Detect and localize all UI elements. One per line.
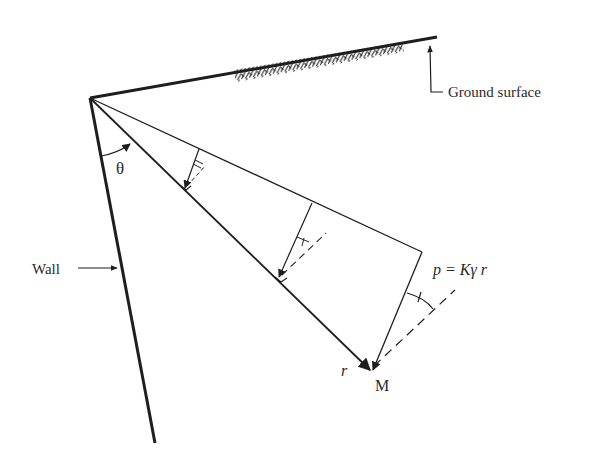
- point-M-label: M: [375, 377, 389, 394]
- theta-label: θ: [116, 159, 124, 178]
- tick-1a: [193, 164, 201, 168]
- ground-surface-line: [90, 37, 437, 98]
- diagram-canvas: Ground surface Wall θ p = Kγ r r M: [0, 0, 608, 473]
- pressure-equation-label: p = Kγ r: [432, 261, 488, 279]
- dashed-normal-M: [374, 290, 455, 366]
- upper-radial-line: [90, 98, 422, 252]
- theta-arc: [101, 144, 130, 156]
- ground-surface-label: Ground surface: [448, 84, 541, 100]
- r-label: r: [341, 362, 348, 379]
- wall-line: [90, 98, 155, 443]
- ground-surface-leader: [430, 46, 443, 92]
- pressure-line-to-M: [373, 252, 422, 370]
- radial-line-r: [90, 98, 370, 370]
- perpendicular-1: [185, 149, 199, 188]
- wall-label: Wall: [32, 261, 60, 277]
- perpendicular-2: [279, 203, 312, 277]
- tick-1b: [195, 160, 203, 164]
